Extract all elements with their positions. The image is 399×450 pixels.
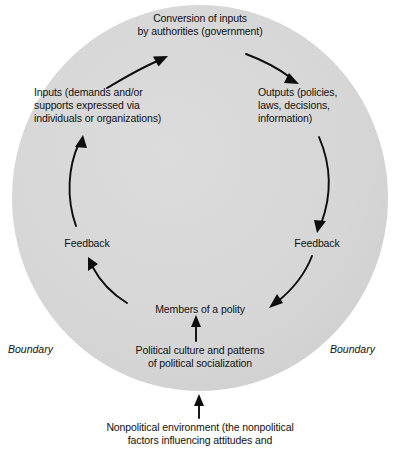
node-label-feedback-left: Feedback (42, 237, 132, 250)
node-label-nonpolitical-environment: Nonpolitical environment (the nonpolitic… (84, 421, 316, 447)
node-label-feedback-right: Feedback (272, 237, 362, 250)
political-system-boundary-circle (12, 5, 388, 391)
arrow-nonpolitical-to-culture-head (194, 394, 204, 406)
boundary-label-left: Boundary (8, 343, 53, 355)
node-label-inputs: Inputs (demands and/or supports expresse… (34, 86, 204, 126)
political-system-diagram: Conversion of inputs by authorities (gov… (0, 0, 399, 450)
boundary-label-right: Boundary (330, 343, 375, 355)
node-label-conversion-of-inputs: Conversion of inputs by authorities (gov… (105, 12, 295, 38)
node-label-outputs: Outputs (policies, laws, decisions, info… (258, 86, 388, 126)
diagram-graphics-layer (0, 0, 399, 450)
node-label-political-culture: Political culture and patterns of politi… (112, 344, 288, 370)
node-label-members-of-a-polity: Members of a polity (130, 303, 270, 316)
